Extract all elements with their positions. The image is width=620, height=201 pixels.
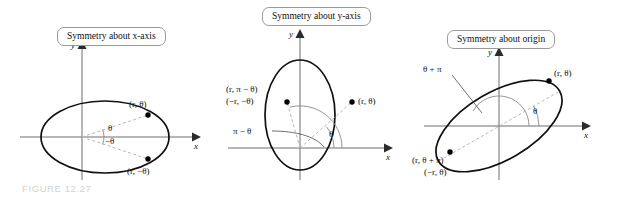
point-marker xyxy=(349,99,354,104)
point-label-r-theta-plus-pi: (r, θ + π) xyxy=(412,155,444,165)
angle-arc-theta-plus-pi xyxy=(473,96,529,126)
angle-arc-negative-theta xyxy=(103,137,104,145)
y-axis-line xyxy=(78,40,87,180)
panel-title-symmetry-origin: Symmetry about origin xyxy=(447,30,555,49)
y-axis-line xyxy=(296,29,305,180)
y-axis-label: y xyxy=(288,29,293,39)
point-marker xyxy=(284,99,289,104)
point-label-r-pi-minus-theta: (r, π − θ) xyxy=(226,84,258,94)
x-axis-line xyxy=(228,144,393,153)
point-marker xyxy=(546,78,551,83)
ray-to-point-1 xyxy=(287,102,300,148)
point-label-negative-r-negative-theta: (−r, −θ) xyxy=(226,96,254,106)
angle-label-pi-minus-theta: π − θ xyxy=(233,126,251,136)
panel-symmetry-y-axis: (r, π − θ) (−r, −θ) (r, θ) π − θ θ x y xyxy=(210,0,410,201)
panel-title-symmetry-y-axis: Symmetry about y-axis xyxy=(262,7,371,26)
figure-caption: FIGURE 12.27 xyxy=(22,183,92,194)
panel-title-symmetry-x-axis: Symmetry about x-axis xyxy=(57,27,166,46)
point-marker xyxy=(145,156,150,161)
point-label-r-theta: (r, θ) xyxy=(358,96,375,106)
point-marker xyxy=(447,149,452,154)
x-axis-label: x xyxy=(385,152,390,162)
angle-arc-theta xyxy=(103,130,104,138)
angle-label-negative-theta: −θ xyxy=(105,136,114,146)
x-axis-label: x xyxy=(193,141,198,151)
x-axis-label: x xyxy=(583,130,588,140)
ray-to-point-2 xyxy=(300,102,352,148)
point-label-r-negative-theta: (r, −θ) xyxy=(127,166,150,176)
angle-label-theta-plus-pi: θ + π xyxy=(423,64,442,74)
point-label-r-theta: (r, θ) xyxy=(129,99,146,109)
y-axis-line xyxy=(495,47,504,180)
ray-to-point-2 xyxy=(82,137,148,159)
figure-container: (r, θ) (r, −θ) θ −θ x y (r, π − θ) xyxy=(0,0,620,201)
angle-label-theta: θ xyxy=(329,129,333,139)
point-label-r-theta: (r, θ) xyxy=(554,68,571,78)
angle-label-theta: θ xyxy=(108,123,112,133)
angle-label-theta: θ xyxy=(533,106,537,116)
point-marker xyxy=(145,112,150,117)
ray-to-point-1 xyxy=(82,115,148,137)
point-label-negative-r-theta: (−r, θ) xyxy=(424,167,447,177)
